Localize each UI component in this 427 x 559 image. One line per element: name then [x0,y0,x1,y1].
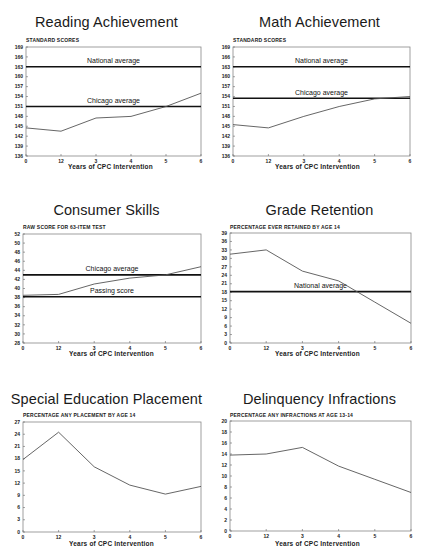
x-axis-label: Years of CPC Intervention [211,540,424,547]
y-tick-label: 6 [224,323,227,329]
y-tick-label: 30 [14,331,20,337]
y-tick-label: 44 [14,267,20,273]
x-tick-label: 5 [164,534,167,540]
y-tick-label: 20 [221,418,227,424]
x-axis-label: Years of CPC Intervention [211,350,424,357]
chart-special-education-placement: Special Education Placement PERCENTAGE A… [0,375,213,559]
y-tick-label: 163 [222,64,231,70]
reference-line-label: Passing score [90,287,134,295]
plot-area: 0369121518212427303336390123456National … [213,185,426,371]
y-tick-label: 9 [224,314,227,320]
x-axis-label: Years of CPC Intervention [4,163,217,170]
y-tick-label: 46 [14,258,20,264]
y-tick-label: 21 [14,443,20,449]
y-tick-label: 42 [14,276,20,282]
y-tick-label: 6 [17,504,20,510]
chart-delinquency-infractions: Delinquency Infractions PERCENTAGE ANY I… [213,375,426,559]
y-tick-label: 32 [14,322,20,328]
y-tick-label: 154 [222,93,231,99]
reference-line-label: Chicago average [295,89,348,97]
y-tick-label: 33 [221,247,227,253]
y-tick-label: 28 [14,340,20,346]
data-series-line [233,97,410,128]
x-tick-label: 3 [93,534,96,540]
reference-line-label: National average [294,282,347,290]
y-tick-label: 166 [222,54,231,60]
y-tick-label: 12 [221,462,227,468]
x-tick-label: 6 [200,534,203,540]
y-tick-label: 39 [221,230,227,236]
y-tick-label: 3 [224,331,227,337]
y-tick-label: 18 [14,455,20,461]
plot-area: 03691215182124270123456 [0,375,213,559]
y-tick-label: 16 [221,440,227,446]
y-tick-label: 142 [15,133,24,139]
y-tick-label: 160 [15,73,24,79]
reference-line-label: Chicago average [86,265,139,273]
y-tick-label: 27 [14,419,20,425]
y-tick-label: 163 [15,64,24,70]
reference-line-label: National average [295,57,348,65]
y-tick-label: 136 [15,153,24,159]
x-tick-label: 5 [373,533,376,539]
y-tick-label: 12 [221,306,227,312]
data-series-line [23,432,201,494]
y-tick-label: 38 [14,294,20,300]
x-axis-label: Years of CPC Intervention [5,350,218,357]
y-tick-label: 154 [15,93,24,99]
y-tick-label: 166 [15,54,24,60]
data-series-line [230,447,411,492]
y-tick-label: 52 [14,231,20,237]
y-tick-label: 50 [14,240,20,246]
y-tick-label: 18 [221,289,227,295]
y-tick-label: 15 [221,297,227,303]
reference-line-label: Chicago average [87,97,140,105]
y-tick-label: 14 [221,451,227,457]
y-tick-label: 169 [15,44,24,50]
y-tick-label: 148 [15,113,24,119]
y-tick-label: 21 [221,280,227,286]
x-tick-label: 4 [337,533,340,539]
y-tick-label: 4 [224,506,227,512]
y-tick-label: 30 [221,255,227,261]
x-tick-label: 6 [410,533,413,539]
y-tick-label: 24 [221,272,227,278]
y-tick-label: 15 [14,468,20,474]
x-tick-label: 4 [128,534,131,540]
x-tick-label: 12 [56,534,62,540]
plot-frame [230,421,411,531]
y-tick-label: 145 [15,123,24,129]
y-tick-label: 157 [15,83,24,89]
y-tick-label: 0 [17,529,20,535]
y-tick-label: 27 [221,264,227,270]
y-tick-label: 136 [222,153,231,159]
y-tick-label: 3 [17,516,20,522]
y-tick-label: 12 [14,480,20,486]
y-tick-label: 36 [14,303,20,309]
y-tick-label: 157 [222,83,231,89]
chart-consumer-skills: Consumer Skills RAW SCORE FOR 63-ITEM TE… [0,185,213,371]
y-tick-label: 40 [14,285,20,291]
y-tick-label: 139 [222,143,231,149]
chart-math-achievement: Math Achievement STANDARD SCORES 1361391… [213,0,426,186]
y-tick-label: 142 [222,133,231,139]
y-tick-label: 0 [224,528,227,534]
chart-reading-achievement: Reading Achievement STANDARD SCORES 1361… [0,0,213,186]
y-tick-label: 10 [221,473,227,479]
y-tick-label: 2 [224,517,227,523]
chart-grade-retention: Grade Retention PERCENTAGE EVER RETAINED… [213,185,426,371]
x-tick-label: 12 [263,533,269,539]
y-tick-label: 148 [222,113,231,119]
y-tick-label: 0 [224,340,227,346]
x-tick-label: 3 [301,533,304,539]
y-tick-label: 145 [222,123,231,129]
x-tick-label: 0 [229,533,232,539]
y-tick-label: 48 [14,249,20,255]
x-axis-label: Years of CPC Intervention [5,540,218,547]
y-tick-label: 18 [221,429,227,435]
y-tick-label: 34 [14,312,20,318]
x-tick-label: 0 [22,534,25,540]
y-tick-label: 9 [17,492,20,498]
plot-area: 1361391421451481511541571601631661690123… [0,0,213,186]
y-tick-label: 139 [15,143,24,149]
